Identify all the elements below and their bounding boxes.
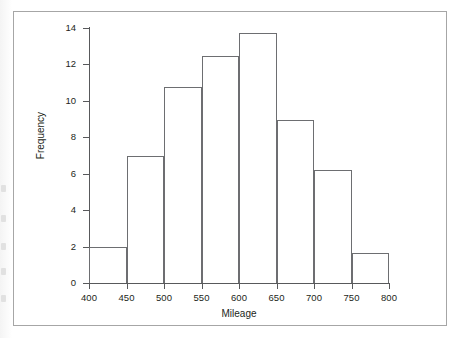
scan-edge-artifact <box>0 0 12 338</box>
y-axis-title: Frequency <box>35 101 46 171</box>
x-tick-label: 700 <box>294 293 334 303</box>
x-tick-mark <box>239 283 240 289</box>
y-tick-mark <box>83 101 89 102</box>
histogram-bar <box>239 33 277 283</box>
y-tick-label: 4 <box>46 205 76 215</box>
x-tick-label: 400 <box>69 293 109 303</box>
x-tick-mark <box>389 283 390 289</box>
scan-mark <box>1 185 6 192</box>
y-tick-mark <box>83 64 89 65</box>
x-tick-mark <box>314 283 315 289</box>
x-tick-mark <box>352 283 353 289</box>
y-tick-label: 10 <box>46 96 76 106</box>
x-tick-label: 600 <box>219 293 259 303</box>
x-tick-label: 650 <box>257 293 297 303</box>
y-tick-label: 2 <box>46 242 76 252</box>
scan-mark <box>1 268 6 275</box>
histogram-bar <box>127 156 165 284</box>
y-tick-label: 14 <box>46 23 76 33</box>
x-tick-label: 800 <box>369 293 409 303</box>
scan-mark <box>1 243 6 250</box>
x-tick-mark <box>277 283 278 289</box>
x-tick-mark <box>202 283 203 289</box>
figure-frame: 02468101214 400450500550600650700750800 … <box>13 11 447 326</box>
y-tick-label: 0 <box>46 278 76 288</box>
scan-mark <box>1 215 6 222</box>
x-tick-label: 500 <box>144 293 184 303</box>
x-tick-mark <box>164 283 165 289</box>
histogram-bar <box>352 253 390 283</box>
y-tick-mark <box>83 210 89 211</box>
y-tick-label: 12 <box>46 59 76 69</box>
x-tick-mark <box>89 283 90 289</box>
histogram-bar <box>202 56 240 283</box>
x-axis-title: Mileage <box>89 308 389 319</box>
histogram-bar <box>164 87 202 283</box>
x-tick-label: 750 <box>332 293 372 303</box>
histogram-bar <box>314 170 352 283</box>
y-tick-label: 6 <box>46 169 76 179</box>
y-axis-line <box>89 27 90 284</box>
y-tick-mark <box>83 174 89 175</box>
histogram-chart: 02468101214 400450500550600650700750800 … <box>14 12 448 327</box>
x-tick-mark <box>127 283 128 289</box>
scan-mark <box>1 295 6 302</box>
x-tick-label: 450 <box>107 293 147 303</box>
histogram-bar <box>89 247 127 283</box>
y-tick-label: 8 <box>46 132 76 142</box>
histogram-bar <box>277 120 315 283</box>
y-tick-mark <box>83 137 89 138</box>
y-tick-mark <box>83 28 89 29</box>
x-tick-label: 550 <box>182 293 222 303</box>
